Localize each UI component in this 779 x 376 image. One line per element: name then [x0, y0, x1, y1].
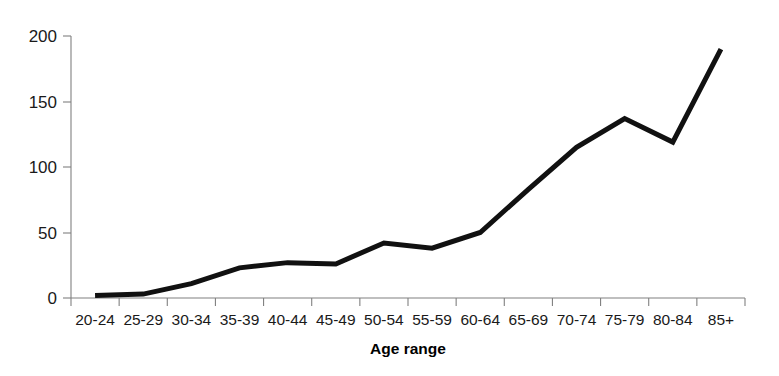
chart-canvas: 200 150 100 50 0 20-2425-2930-3435-3940-… [0, 0, 779, 376]
x-tick-label: 55-59 [412, 311, 452, 328]
x-tick-label: 80-84 [653, 311, 693, 328]
y-tick-label-0: 0 [48, 289, 57, 308]
x-tick-label: 40-44 [268, 311, 308, 328]
x-tick-label: 45-49 [316, 311, 356, 328]
x-tick-label: 70-74 [557, 311, 597, 328]
x-tick-label: 35-39 [220, 311, 260, 328]
x-axis-title: Age range [370, 340, 446, 357]
y-tick-label-100: 100 [29, 158, 57, 177]
x-tick-label: 20-24 [75, 311, 115, 328]
y-tick-label-200: 200 [29, 27, 57, 46]
x-tick-label: 25-29 [123, 311, 163, 328]
x-tick-label: 50-54 [364, 311, 404, 328]
line-chart: 200 150 100 50 0 20-2425-2930-3435-3940-… [0, 0, 779, 376]
x-tick-label: 65-69 [509, 311, 549, 328]
x-tick-label: 75-79 [605, 311, 645, 328]
y-tick-label-150: 150 [29, 93, 57, 112]
x-tick-label: 30-34 [172, 311, 212, 328]
x-tick-label: 60-64 [460, 311, 500, 328]
y-tick-label-50: 50 [38, 224, 57, 243]
x-tick-label: 85+ [708, 311, 734, 328]
